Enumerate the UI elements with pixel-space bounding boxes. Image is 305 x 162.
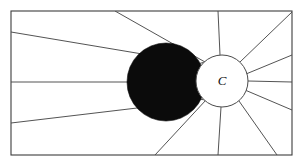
occulting-disc [127,43,205,121]
eclipse-geometry-figure: C [0,0,305,162]
source-circle-label: C [218,73,227,88]
diagram-canvas: C [0,0,305,162]
